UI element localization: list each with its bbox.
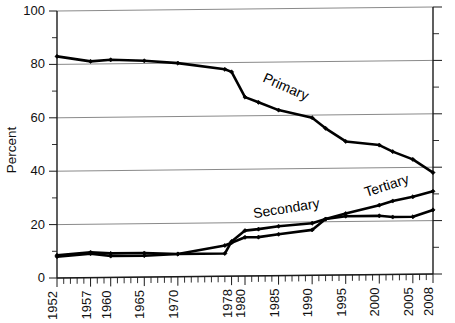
data-point-marker: [391, 215, 395, 219]
data-point-marker: [377, 214, 381, 218]
y-tick-label: 60: [31, 110, 45, 125]
x-tick-label: 2005: [401, 287, 416, 316]
line-chart-svg: 020406080100 195219571960196519701978198…: [0, 0, 455, 323]
series-lines-group: [57, 56, 433, 256]
data-point-marker: [142, 59, 146, 63]
y-tick-label: 40: [31, 163, 45, 178]
x-tick-label: 1990: [300, 288, 315, 317]
series-label-tertiary: Tertiary: [362, 171, 411, 200]
y-tick-label-group: 020406080100: [23, 3, 45, 285]
series-label-primary: Primary: [261, 69, 312, 103]
x-tick-label: 1980: [233, 289, 248, 318]
chart-figure: 020406080100 195219571960196519701978198…: [0, 0, 455, 323]
x-tick-label: 1957: [79, 291, 94, 320]
x-tick-label: 1995: [334, 288, 349, 317]
y-axis-title: Percent: [4, 126, 19, 173]
x-tick-label: 1960: [99, 290, 114, 319]
series-markers-group: [55, 54, 435, 258]
y-tick-label: 0: [38, 270, 45, 285]
y-tick-label: 80: [31, 56, 45, 71]
y-tick-label: 100: [23, 3, 45, 18]
x-tick-label: 1952: [45, 291, 60, 320]
series-label-secondary: Secondary: [252, 195, 321, 221]
x-tick-label: 2000: [367, 288, 382, 317]
data-point-marker: [109, 58, 113, 62]
x-tick-label-group: 1952195719601965197019781980198519901995…: [45, 287, 436, 320]
x-tick-label: 1985: [267, 289, 282, 318]
x-tick-label: 2008: [421, 287, 436, 316]
x-tick-label: 1970: [166, 290, 181, 319]
x-tick-label: 1965: [132, 290, 147, 319]
y-tick-label: 20: [31, 217, 45, 232]
